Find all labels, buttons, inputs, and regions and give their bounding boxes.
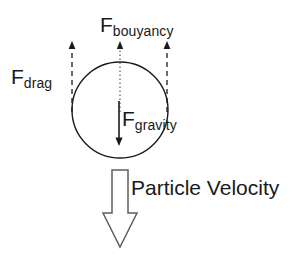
force-label-gravity-subscript: gravity: [135, 117, 177, 133]
diagram-canvas: Fbouyancy Fdrag Fgravity Particle Veloci…: [0, 0, 294, 256]
drag-arrow-left: [69, 41, 76, 112]
force-label-bouyancy: Fbouyancy: [100, 14, 174, 38]
force-label-gravity-base: F: [122, 107, 135, 130]
force-label-drag-subscript: drag: [24, 75, 52, 91]
drag-arrow-right: [164, 41, 171, 112]
bouyancy-arrow: [117, 41, 123, 112]
force-label-bouyancy-base: F: [100, 13, 113, 36]
force-label-drag: Fdrag: [11, 66, 52, 90]
force-label-bouyancy-subscript: bouyancy: [113, 23, 174, 39]
particle-velocity-label: Particle Velocity: [131, 177, 279, 198]
force-label-gravity: Fgravity: [122, 108, 177, 132]
force-label-drag-base: F: [11, 65, 24, 88]
